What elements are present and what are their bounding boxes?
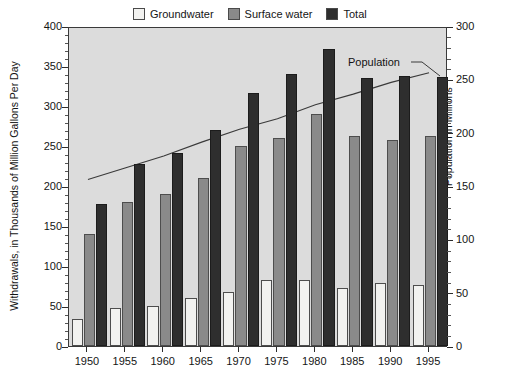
y-left-tick-minor (65, 323, 69, 324)
y-left-tick-minor (65, 83, 69, 84)
bar-surface-water-1960 (160, 194, 171, 346)
bar-surface-water-1950 (84, 234, 95, 346)
y-right-tick-label: 150 (456, 180, 474, 192)
y-right-tick-label: 200 (456, 127, 474, 139)
y-left-tick-minor (65, 259, 69, 260)
y-left-tick-major (62, 187, 68, 188)
legend-swatch-surface-water (228, 8, 240, 20)
y-left-tick-minor (65, 139, 69, 140)
y-left-tick-minor (65, 35, 69, 36)
legend-label-surface-water: Surface water (245, 8, 313, 20)
legend-swatch-groundwater (133, 8, 145, 20)
y-left-tick-minor (65, 331, 69, 332)
y-left-tick-minor (65, 291, 69, 292)
bar-groundwater-1985 (337, 288, 348, 346)
y-left-tick-minor (65, 195, 69, 196)
x-tick (162, 347, 163, 352)
y-left-tick-major (62, 267, 68, 268)
y-right-tick-minor (447, 91, 451, 92)
y-left-tick-minor (65, 75, 69, 76)
y-left-tick-minor (65, 203, 69, 204)
y-right-tick-major (447, 187, 453, 188)
x-tick (200, 347, 201, 352)
y-left-tick-minor (65, 59, 69, 60)
y-right-tick-major (447, 80, 453, 81)
y-right-tick-minor (447, 48, 451, 49)
y-right-tick-minor (447, 144, 451, 145)
y-left-tick-minor (65, 179, 69, 180)
y-left-tick-minor (65, 123, 69, 124)
y-right-tick-major (447, 293, 453, 294)
bar-groundwater-1975 (261, 280, 272, 346)
bar-surface-water-1965 (198, 178, 209, 346)
y-left-tick-label: 250 (26, 140, 62, 152)
y-left-tick-major (62, 27, 68, 28)
chart-legend: Groundwater Surface water Total (133, 6, 395, 22)
bar-groundwater-1960 (147, 306, 158, 346)
bar-surface-water-1985 (349, 136, 360, 346)
y-right-tick-minor (447, 176, 451, 177)
legend-item-groundwater: Groundwater (133, 8, 214, 20)
y-right-tick-major (447, 240, 453, 241)
y-right-tick-label: 0 (456, 340, 462, 352)
y-left-tick-label: 100 (26, 260, 62, 272)
x-tick (238, 347, 239, 352)
y-left-tick-minor (65, 235, 69, 236)
y-right-tick-minor (447, 123, 451, 124)
y-left-tick-minor (65, 219, 69, 220)
y-left-tick-major (62, 227, 68, 228)
y-right-tick-major (447, 133, 453, 134)
y-left-tick-minor (65, 315, 69, 316)
bar-groundwater-1980 (299, 280, 310, 346)
bar-total-1980 (323, 49, 334, 346)
y-right-tick-minor (447, 272, 451, 273)
y-left-tick-minor (65, 275, 69, 276)
y-left-tick-minor (65, 51, 69, 52)
y-right-tick-minor (447, 336, 451, 337)
bar-groundwater-1970 (223, 292, 234, 346)
y-right-tick-minor (447, 165, 451, 166)
y-left-tick-minor (65, 243, 69, 244)
y-right-tick-minor (447, 155, 451, 156)
y-right-tick-minor (447, 261, 451, 262)
y-left-tick-minor (65, 131, 69, 132)
y-left-tick-label: 350 (26, 60, 62, 72)
y-left-tick-minor (65, 43, 69, 44)
y-right-tick-minor (447, 283, 451, 284)
bar-total-1985 (361, 78, 372, 346)
y-left-tick-label: 400 (26, 20, 62, 32)
bar-total-1970 (248, 93, 259, 346)
bar-surface-water-1970 (235, 146, 246, 346)
y-right-tick-minor (447, 315, 451, 316)
x-tick (352, 347, 353, 352)
legend-label-total: Total (343, 8, 366, 20)
y-right-tick-minor (447, 208, 451, 209)
bar-total-1950 (96, 204, 107, 346)
y-right-tick-minor (447, 325, 451, 326)
y-left-tick-major (62, 147, 68, 148)
legend-item-total: Total (326, 8, 366, 20)
y-right-tick-minor (447, 304, 451, 305)
bar-surface-water-1975 (273, 138, 284, 346)
y-left-tick-minor (65, 155, 69, 156)
y-left-tick-major (62, 347, 68, 348)
x-tick (276, 347, 277, 352)
y-left-tick-minor (65, 251, 69, 252)
y-right-tick-minor (447, 251, 451, 252)
y-right-tick-minor (447, 229, 451, 230)
y-right-tick-label: 300 (456, 20, 474, 32)
x-tick-label-1995: 1995 (405, 355, 451, 367)
y-left-tick-minor (65, 163, 69, 164)
y-left-tick-minor (65, 339, 69, 340)
legend-label-groundwater: Groundwater (150, 8, 214, 20)
legend-swatch-total (326, 8, 338, 20)
y-right-tick-label: 100 (456, 233, 474, 245)
y-left-tick-label: 150 (26, 220, 62, 232)
bar-total-1975 (286, 74, 297, 346)
bar-groundwater-1995 (413, 285, 424, 346)
y-right-tick-minor (447, 59, 451, 60)
y-left-tick-label: 0 (26, 340, 62, 352)
x-tick (390, 347, 391, 352)
plot-area (68, 27, 447, 347)
y-right-tick-minor (447, 112, 451, 113)
